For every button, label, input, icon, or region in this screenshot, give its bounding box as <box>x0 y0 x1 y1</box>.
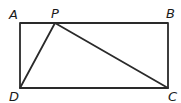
segment-pd <box>20 23 55 88</box>
geometry-diagram: A P B D C <box>0 0 181 103</box>
label-c: C <box>168 89 178 103</box>
label-b: B <box>166 6 175 21</box>
label-p: P <box>51 6 59 21</box>
segment-pc <box>55 23 168 88</box>
rectangle-abcd <box>20 23 168 88</box>
label-d: D <box>9 89 19 103</box>
label-a: A <box>8 7 18 22</box>
